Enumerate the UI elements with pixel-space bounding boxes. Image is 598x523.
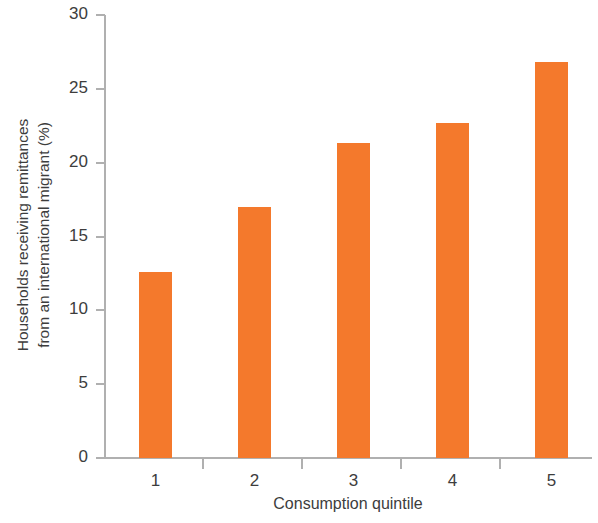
x-axis-tick-label: 5 [522, 471, 582, 491]
bar [139, 272, 172, 458]
bar [238, 207, 271, 458]
y-axis-tick-label: 5 [20, 373, 88, 393]
x-axis-tick [400, 459, 402, 469]
x-axis-tick [301, 459, 303, 469]
y-axis-tick-label: 20 [20, 152, 88, 172]
y-axis-tick-label: 15 [20, 226, 88, 246]
x-axis-tick [499, 459, 501, 469]
bar-chart: Households receiving remittances from an… [0, 0, 598, 523]
y-axis-tick-label: 0 [20, 447, 88, 467]
y-axis-tick-label: 10 [20, 299, 88, 319]
y-axis-tick-label: 25 [20, 78, 88, 98]
x-axis-tick-label: 3 [324, 471, 384, 491]
x-axis-tick [202, 459, 204, 469]
x-axis-tick-label: 1 [126, 471, 186, 491]
y-axis-tick-label: 30 [20, 4, 88, 24]
x-axis-title: Consumption quintile [104, 495, 592, 513]
bar [436, 123, 469, 458]
bars-layer [104, 15, 592, 458]
x-axis-tick-label: 4 [423, 471, 483, 491]
bar [535, 62, 568, 458]
x-axis-tick-label: 2 [225, 471, 285, 491]
bar [337, 143, 370, 458]
